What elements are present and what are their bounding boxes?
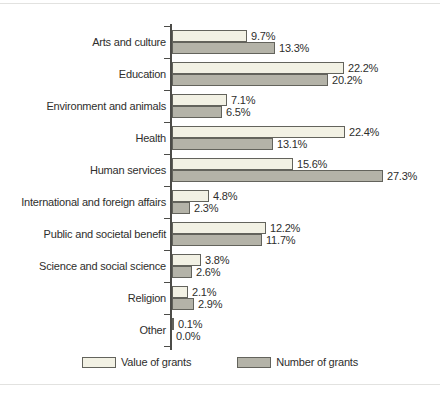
legend-label: Value of grants: [121, 356, 191, 368]
value-of-grants-data-label: 22.2%: [348, 62, 378, 74]
value-of-grants-bar: [172, 62, 344, 74]
chart-row: Public and societal benefit 12.2% 11.7%: [0, 218, 440, 250]
value-of-grants-bar-line: 22.2%: [172, 62, 440, 74]
number-of-grants-data-label: 6.5%: [226, 106, 250, 118]
number-of-grants-data-label: 13.3%: [279, 42, 309, 54]
chart-row: Other 0.1% 0.0%: [0, 314, 440, 346]
value-of-grants-data-label: 12.2%: [270, 222, 300, 234]
value-of-grants-bar: [172, 30, 247, 42]
value-of-grants-bar-line: 15.6%: [172, 158, 440, 170]
chart-plot-area: Arts and culture 9.7% 13.3% Education 22…: [0, 26, 440, 346]
value-of-grants-bar: [172, 286, 188, 298]
value-of-grants-bar: [172, 190, 209, 202]
number-of-grants-bar-line: 2.6%: [172, 266, 440, 278]
legend-item-number-of-grants: Number of grants: [237, 356, 358, 368]
number-of-grants-data-label: 20.2%: [332, 74, 362, 86]
chart-row: International and foreign affairs 4.8% 2…: [0, 186, 440, 218]
value-of-grants-bar: [172, 158, 293, 170]
bar-group: 15.6% 27.3%: [172, 154, 440, 186]
number-of-grants-data-label: 0.0%: [176, 330, 200, 342]
bar-group: 12.2% 11.7%: [172, 218, 440, 250]
bar-group: 7.1% 6.5%: [172, 90, 440, 122]
legend-label: Number of grants: [276, 356, 358, 368]
number-of-grants-bar: [172, 74, 328, 86]
number-of-grants-data-label: 11.7%: [266, 234, 295, 246]
value-of-grants-bar: [172, 94, 227, 106]
number-of-grants-data-label: 27.3%: [387, 170, 417, 182]
bar-group: 22.4% 13.1%: [172, 122, 440, 154]
chart-row: Arts and culture 9.7% 13.3%: [0, 26, 440, 58]
category-label: International and foreign affairs: [0, 186, 172, 218]
legend-item-value-of-grants: Value of grants: [82, 356, 191, 368]
value-of-grants-bar-line: 2.1%: [172, 286, 440, 298]
value-of-grants-bar-line: 0.1%: [172, 318, 440, 330]
axis-tick: [164, 346, 170, 347]
bottom-rule: [0, 384, 440, 385]
value-of-grants-bar-line: 3.8%: [172, 254, 440, 266]
value-of-grants-bar: [172, 222, 266, 234]
number-of-grants-bar-line: 13.1%: [172, 138, 440, 150]
number-of-grants-data-label: 13.1%: [277, 138, 307, 150]
value-of-grants-data-label: 7.1%: [231, 94, 255, 106]
number-of-grants-bar-line: 20.2%: [172, 74, 440, 86]
bar-group: 9.7% 13.3%: [172, 26, 440, 58]
value-of-grants-data-label: 9.7%: [251, 30, 275, 42]
category-label: Environment and animals: [0, 90, 172, 122]
number-of-grants-bar: [172, 106, 222, 118]
category-label: Other: [0, 314, 172, 346]
value-of-grants-data-label: 2.1%: [192, 286, 216, 298]
category-label: Education: [0, 58, 172, 90]
category-label: Science and social science: [0, 250, 172, 282]
number-of-grants-swatch-icon: [237, 357, 271, 368]
legend: Value of grants Number of grants: [0, 356, 440, 368]
bar-group: 3.8% 2.6%: [172, 250, 440, 282]
bar-group: 2.1% 2.9%: [172, 282, 440, 314]
chart-row: Human services 15.6% 27.3%: [0, 154, 440, 186]
value-of-grants-bar-line: 4.8%: [172, 190, 440, 202]
value-of-grants-bar-line: 22.4%: [172, 126, 440, 138]
value-of-grants-data-label: 22.4%: [349, 126, 379, 138]
value-of-grants-data-label: 3.8%: [205, 254, 229, 266]
number-of-grants-bar: [172, 234, 262, 246]
number-of-grants-bar: [172, 42, 275, 54]
number-of-grants-bar: [172, 138, 273, 150]
value-of-grants-data-label: 15.6%: [297, 158, 327, 170]
category-label: Religion: [0, 282, 172, 314]
category-label: Arts and culture: [0, 26, 172, 58]
category-label: Human services: [0, 154, 172, 186]
number-of-grants-bar-line: 2.9%: [172, 298, 440, 310]
number-of-grants-bar: [172, 266, 192, 278]
number-of-grants-bar: [172, 202, 190, 214]
number-of-grants-bar-line: 11.7%: [172, 234, 440, 246]
number-of-grants-bar-line: 27.3%: [172, 170, 440, 182]
value-of-grants-bar-line: 9.7%: [172, 30, 440, 42]
number-of-grants-data-label: 2.9%: [198, 298, 222, 310]
category-label: Health: [0, 122, 172, 154]
chart-row: Education 22.2% 20.2%: [0, 58, 440, 90]
chart-row: Science and social science 3.8% 2.6%: [0, 250, 440, 282]
value-of-grants-data-label: 4.8%: [213, 190, 237, 202]
bar-chart-figure: Arts and culture 9.7% 13.3% Education 22…: [0, 0, 440, 393]
number-of-grants-bar-line: 6.5%: [172, 106, 440, 118]
top-rule: [0, 3, 440, 4]
value-of-grants-data-label: 0.1%: [178, 318, 202, 330]
number-of-grants-data-label: 2.3%: [194, 202, 218, 214]
value-of-grants-bar-line: 7.1%: [172, 94, 440, 106]
number-of-grants-bar: [172, 298, 194, 310]
category-label: Public and societal benefit: [0, 218, 172, 250]
number-of-grants-data-label: 2.6%: [196, 266, 220, 278]
number-of-grants-bar-line: 0.0%: [172, 330, 440, 342]
chart-row: Religion 2.1% 2.9%: [0, 282, 440, 314]
bar-group: 4.8% 2.3%: [172, 186, 440, 218]
chart-row: Health 22.4% 13.1%: [0, 122, 440, 154]
value-of-grants-bar: [172, 254, 201, 266]
value-of-grants-swatch-icon: [82, 357, 116, 368]
value-of-grants-bar: [172, 126, 345, 138]
number-of-grants-bar-line: 2.3%: [172, 202, 440, 214]
bar-group: 0.1% 0.0%: [172, 314, 440, 346]
bar-group: 22.2% 20.2%: [172, 58, 440, 90]
chart-row: Environment and animals 7.1% 6.5%: [0, 90, 440, 122]
number-of-grants-bar-line: 13.3%: [172, 42, 440, 54]
value-of-grants-bar: [172, 318, 174, 330]
number-of-grants-bar: [172, 170, 383, 182]
